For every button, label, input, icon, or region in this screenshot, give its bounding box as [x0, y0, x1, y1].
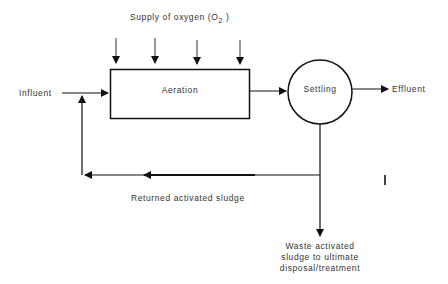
return-sludge-line [82, 96, 320, 175]
waste-sludge-label: Waste activated sludge to ultimate dispo… [268, 241, 372, 274]
aeration-label: Aeration [110, 85, 250, 95]
oxygen-supply-label: Supply of oxygen (O2 ) [130, 12, 229, 24]
text-cursor [384, 175, 386, 185]
waste-label-line-3: disposal/treatment [268, 263, 372, 274]
waste-label-line-2: sludge to ultimate [268, 252, 372, 263]
process-diagram [0, 0, 448, 284]
waste-label-line-1: Waste activated [268, 241, 372, 252]
oxygen-supply-arrows [116, 38, 240, 64]
influent-label: Influent [19, 88, 52, 98]
returned-sludge-label: Returned activated sludge [131, 193, 245, 203]
effluent-label: Effluent [392, 84, 425, 94]
settling-label: Settling [288, 84, 352, 94]
